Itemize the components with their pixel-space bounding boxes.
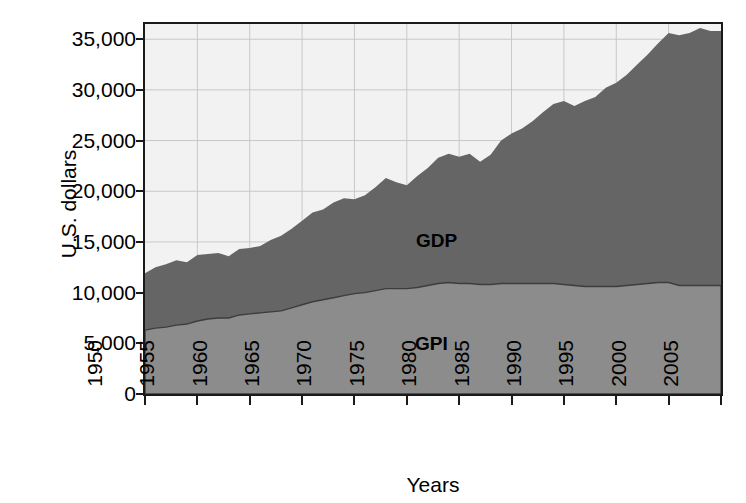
x-tick-label: 1960 (188, 340, 208, 410)
y-tick-mark (136, 89, 144, 91)
y-tick-label: 15,000 (48, 230, 136, 254)
gdp-gpi-area-chart: U.S. dollars 05,00010,00015,00020,00025,… (0, 0, 746, 503)
y-tick-label: 30,000 (48, 78, 136, 102)
x-tick-label: 1950 (83, 340, 103, 410)
x-tick-label: 1965 (240, 340, 260, 410)
y-tick-mark (136, 292, 144, 294)
y-tick-mark (136, 38, 144, 40)
y-tick-label: 25,000 (48, 129, 136, 153)
x-tick-label: 1970 (292, 340, 312, 410)
x-tick-label: 2000 (607, 340, 627, 410)
x-tick-label: 1995 (554, 340, 574, 410)
y-tick-mark (136, 190, 144, 192)
y-tick-label: 10,000 (48, 281, 136, 305)
y-tick-mark (136, 241, 144, 243)
y-tick-mark (136, 140, 144, 142)
x-tick-label: 1980 (397, 340, 417, 410)
x-tick-label: 1990 (502, 340, 522, 410)
x-tick-label: 1975 (345, 340, 365, 410)
x-tick-label: 2005 (659, 340, 679, 410)
x-axis-title: Years (143, 473, 723, 497)
gdp-series-label: GDP (416, 230, 457, 252)
x-tick-label: 1955 (135, 340, 155, 410)
y-tick-label: 35,000 (48, 27, 136, 51)
x-tick-mark (720, 396, 722, 405)
y-tick-label: 20,000 (48, 179, 136, 203)
x-tick-label: 1985 (450, 340, 470, 410)
